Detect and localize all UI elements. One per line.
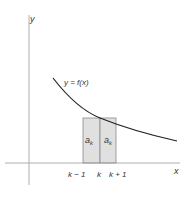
tick-k-plus-1: k + 1 — [109, 170, 127, 179]
x-axis-label: x — [173, 166, 179, 176]
integral-test-diagram: y x y = f(x) ak ak k − 1 k k + 1 — [0, 0, 191, 200]
tick-k-minus-1: k − 1 — [68, 170, 86, 179]
y-axis-label: y — [29, 14, 35, 24]
curve-label: y = f(x) — [63, 78, 89, 87]
tick-k: k — [97, 170, 102, 179]
